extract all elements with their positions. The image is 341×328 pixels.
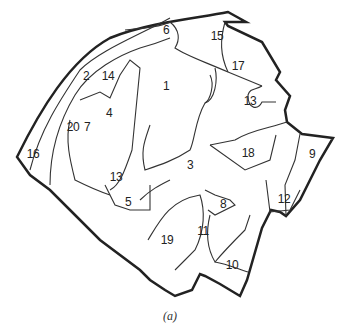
region-label: 1 xyxy=(163,80,169,92)
region-label: 3 xyxy=(187,159,193,171)
region-label: 19 xyxy=(161,234,173,246)
region-label: 20 xyxy=(67,121,79,133)
region-label: 13 xyxy=(244,95,256,107)
region-label: 7 xyxy=(84,121,90,133)
region-label: 18 xyxy=(242,147,254,159)
region-label: 16 xyxy=(27,148,39,160)
region-label: 6 xyxy=(163,24,169,36)
region-label: 9 xyxy=(309,148,315,160)
map-boundary xyxy=(17,12,333,296)
figure-caption: (a) xyxy=(163,309,177,324)
region-label: 12 xyxy=(278,193,290,205)
region-label: 14 xyxy=(102,70,114,82)
region-label: 13 xyxy=(110,171,122,183)
region-map xyxy=(0,0,341,328)
region-label: 2 xyxy=(83,70,89,82)
region-label: 11 xyxy=(197,225,208,237)
region-label: 5 xyxy=(125,196,131,208)
region-label: 4 xyxy=(106,107,112,119)
region-label: 8 xyxy=(220,198,226,210)
region-label: 15 xyxy=(211,30,223,42)
region-label: 17 xyxy=(232,60,244,72)
region-label: 10 xyxy=(226,259,238,271)
